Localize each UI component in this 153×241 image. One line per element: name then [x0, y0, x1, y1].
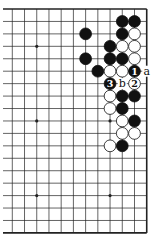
white-stone	[116, 127, 128, 139]
white-stone	[129, 53, 141, 65]
white-stone	[116, 40, 128, 52]
black-stone	[116, 90, 128, 102]
white-stone	[129, 40, 141, 52]
white-stone	[104, 103, 116, 115]
move-number: 3	[107, 78, 114, 89]
black-stone	[80, 53, 92, 65]
white-stone: 2	[129, 78, 141, 90]
black-stone	[104, 53, 116, 65]
black-stone: 1	[129, 65, 141, 77]
white-stone	[129, 28, 141, 40]
star-point	[35, 194, 38, 197]
black-stone	[116, 16, 128, 28]
black-stone	[116, 103, 128, 115]
star-point	[108, 194, 111, 197]
point-label: a	[143, 65, 150, 78]
black-stone	[104, 40, 116, 52]
black-stone	[129, 90, 141, 102]
white-stone	[104, 140, 116, 152]
black-stone	[116, 53, 128, 65]
star-point	[35, 45, 38, 48]
black-stone	[129, 115, 141, 127]
black-stone: 3	[104, 78, 116, 90]
white-stone	[104, 90, 116, 102]
black-stone	[92, 65, 104, 77]
star-point	[108, 119, 111, 122]
black-stone	[129, 16, 141, 28]
white-stone	[104, 65, 116, 77]
go-board: 132 ab	[0, 0, 153, 241]
point-label: b	[119, 77, 126, 90]
white-stone	[116, 115, 128, 127]
move-number: 2	[131, 78, 138, 89]
black-stone	[116, 140, 128, 152]
move-number: 1	[131, 66, 138, 77]
white-stone	[129, 127, 141, 139]
star-point	[35, 119, 38, 122]
black-stone	[80, 28, 92, 40]
white-stone	[116, 65, 128, 77]
black-stone	[116, 28, 128, 40]
